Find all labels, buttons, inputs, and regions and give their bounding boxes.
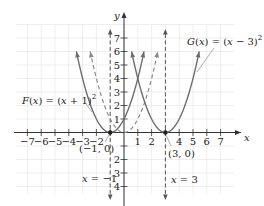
vertex-point <box>163 130 168 135</box>
y-tick-label: 1 <box>114 114 120 125</box>
vertex-left-leader <box>105 135 109 142</box>
y-axis-arrow-icon <box>122 12 127 18</box>
x-tick-label: −5 <box>48 136 63 147</box>
f-function-label: F(x) = (x + 1)2 <box>21 93 96 106</box>
y-tick-label: 6 <box>114 46 120 57</box>
g-function-label: G(x) = (x − 3)2 <box>187 34 262 47</box>
x-tick-label: 4 <box>176 136 182 147</box>
x-tick-label: 5 <box>190 136 196 147</box>
y-tick-label: 5 <box>114 60 120 71</box>
arrow-down-icon <box>163 195 168 201</box>
y-tick-label: 4 <box>114 73 120 84</box>
vertex-point <box>108 130 113 135</box>
arrow-down-icon <box>108 195 113 201</box>
graph-figure: −7−6−5−4−3−21245674321234567 y x F(x) = … <box>0 0 264 206</box>
x-tick-label: 1 <box>135 136 141 147</box>
vline-right-label: x = 3 <box>171 174 198 185</box>
y-tick-label: 7 <box>114 33 120 44</box>
arrow-up-icon <box>163 29 168 35</box>
vertex-right-leader <box>166 135 171 146</box>
vertex-label-right: (3, 0) <box>168 148 195 159</box>
vertex-label-left: (−1, 0) <box>79 143 114 154</box>
y-axis-label: y <box>113 10 120 21</box>
x-tick-label: −6 <box>34 136 49 147</box>
grid <box>16 25 234 194</box>
x-tick-label: 2 <box>148 136 154 147</box>
x-axis-arrow-icon <box>235 130 241 135</box>
y-tick-label: 2 <box>114 100 120 111</box>
x-tick-label: 6 <box>204 136 210 147</box>
arrow-up-icon <box>108 29 113 35</box>
x-tick-label: 7 <box>217 136 223 147</box>
vline-left-label: x = −1 <box>82 173 117 184</box>
x-tick-label: −4 <box>61 136 76 147</box>
y-tick-label: 2 <box>114 154 120 165</box>
x-tick-label: −7 <box>20 136 35 147</box>
curve-arrow-icon <box>154 51 160 58</box>
y-tick-label: 3 <box>114 87 120 98</box>
x-axis-label: x <box>244 132 250 143</box>
